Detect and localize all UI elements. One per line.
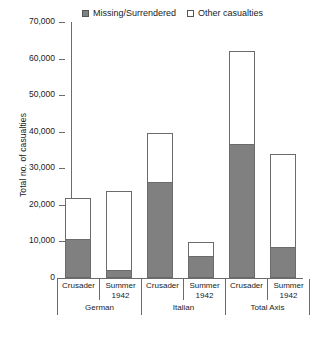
bar-column[interactable]	[229, 51, 255, 278]
bar-segment-other-casualties	[188, 242, 214, 256]
x-axis-sublabel-cell: Crusader	[226, 279, 268, 300]
y-axis-tick-mark	[59, 168, 65, 169]
x-axis-sublabel-cell: Crusader	[58, 279, 100, 300]
bar-segment-missing-surrendered	[147, 182, 173, 278]
bar-segment-other-casualties	[106, 191, 132, 270]
bar-column[interactable]	[65, 198, 91, 278]
bar-segment-missing-surrendered	[229, 144, 255, 278]
y-axis-tick-mark	[59, 22, 65, 23]
bar-column[interactable]	[188, 242, 214, 278]
y-axis-tick-mark	[59, 95, 65, 96]
x-axis-group-cell: Italian	[142, 300, 226, 315]
x-axis-sublabel-line1: Summer	[184, 281, 225, 291]
bar-segment-missing-surrendered	[270, 247, 296, 278]
plot-area	[71, 22, 303, 278]
y-axis-tick-label: 70,000	[29, 16, 55, 26]
legend-label-other-casualties: Other casualties	[198, 8, 263, 19]
legend-item-missing-surrendered: Missing/Surrendered	[82, 8, 176, 19]
bar-segment-other-casualties	[270, 154, 296, 247]
x-axis-sublabel-line1: Crusader	[58, 281, 99, 291]
y-axis-tick-label: 50,000	[29, 89, 55, 99]
x-axis-sublabel-line1: Crusader	[142, 281, 183, 291]
y-axis-tick-label: 0	[50, 272, 55, 282]
bar-segment-missing-surrendered	[106, 270, 132, 278]
x-axis-sublabel-cell: Crusader	[142, 279, 184, 300]
x-axis-sublabel-line2: 1942	[100, 291, 141, 301]
x-axis-sublabel-line2: 1942	[268, 291, 309, 301]
x-axis-sublabel-cell: Summer1942	[100, 279, 142, 300]
legend-item-other-casualties: Other casualties	[187, 8, 263, 19]
x-axis-sublabel-cell: Summer1942	[268, 279, 310, 300]
y-axis-tick-label: 30,000	[29, 162, 55, 172]
x-axis-sublabel-line2: 1942	[184, 291, 225, 301]
hollow-square-icon	[187, 10, 194, 17]
bar-chart: Missing/Surrendered Other casualties Tot…	[0, 0, 315, 338]
y-axis-tick-label: 20,000	[29, 199, 55, 209]
filled-square-icon	[82, 10, 89, 17]
y-axis-tick-label: 60,000	[29, 53, 55, 63]
y-axis-tick-label: 10,000	[29, 235, 55, 245]
x-axis-sublabel-spacer	[58, 291, 99, 301]
legend-label-missing-surrendered: Missing/Surrendered	[93, 8, 176, 19]
bar-segment-missing-surrendered	[188, 256, 214, 278]
x-axis-sublabel-row: Crusader Summer1942Crusader Summer1942Cr…	[58, 279, 310, 300]
y-axis-title: Total no. of casualties	[18, 80, 28, 230]
bar-segment-other-casualties	[229, 51, 255, 144]
y-axis-tick-mark	[59, 132, 65, 133]
bar-column[interactable]	[147, 133, 173, 278]
bar-segment-other-casualties	[65, 198, 91, 239]
bar-segment-other-casualties	[147, 133, 173, 182]
chart-legend: Missing/Surrendered Other casualties	[82, 8, 263, 19]
x-axis-sublabel-line1: Summer	[268, 281, 309, 291]
x-axis-group-row: GermanItalianTotal Axis	[58, 300, 310, 315]
x-axis-group-cell: Total Axis	[226, 300, 310, 315]
x-axis-sublabel-line1: Crusader	[226, 281, 267, 291]
x-axis-sublabel-cell: Summer1942	[184, 279, 226, 300]
y-axis-tick-mark	[59, 59, 65, 60]
bar-segment-missing-surrendered	[65, 239, 91, 278]
y-axis-tick-label: 40,000	[29, 126, 55, 136]
bar-column[interactable]	[106, 191, 132, 278]
x-axis-sublabel-spacer	[142, 291, 183, 301]
x-axis-group-cell: German	[58, 300, 142, 315]
x-axis-sublabel-line1: Summer	[100, 281, 141, 291]
x-axis-category-table: Crusader Summer1942Crusader Summer1942Cr…	[57, 279, 310, 315]
bar-column[interactable]	[270, 154, 296, 278]
x-axis-sublabel-spacer	[226, 291, 267, 301]
